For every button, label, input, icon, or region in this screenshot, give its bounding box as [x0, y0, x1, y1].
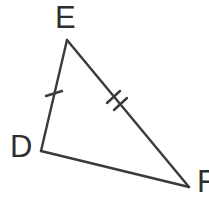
vertex-label-f: F — [197, 166, 209, 197]
vertex-label-e: E — [55, 2, 76, 33]
side-df — [41, 151, 189, 187]
geometry-figure: E D F — [0, 0, 209, 201]
vertex-label-d: D — [10, 131, 32, 162]
side-de — [41, 40, 67, 151]
side-ef — [67, 40, 189, 187]
triangle-diagram — [0, 0, 209, 201]
